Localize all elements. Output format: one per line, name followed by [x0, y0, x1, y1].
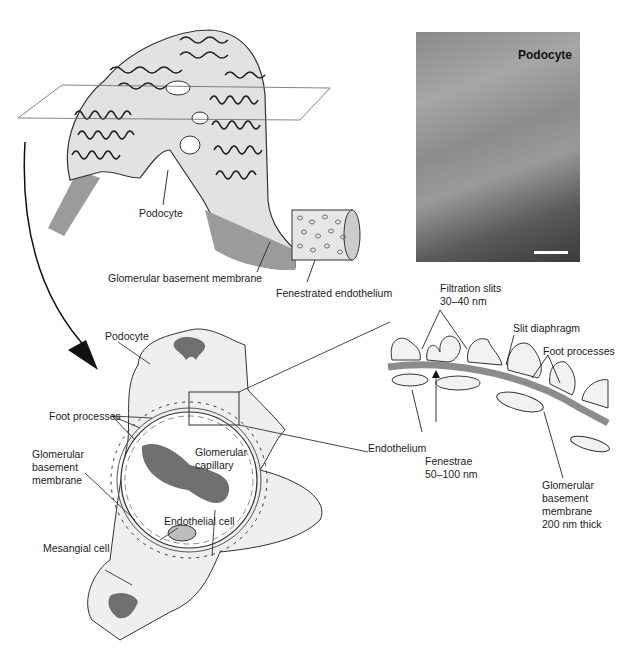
label-endothelial-cell: Endothelial cell: [164, 515, 235, 527]
label-gbm-detail-3: membrane: [542, 505, 592, 517]
micrograph-title: Podocyte: [518, 48, 572, 62]
label-filtration-slits-1: Filtration slits: [440, 282, 501, 294]
label-endothelium: Endothelium: [368, 442, 426, 454]
podocyte-3d-illustration: [18, 30, 360, 282]
label-foot-processes-section: Foot processes: [49, 410, 121, 422]
label-capillary-1: Glomerular: [195, 446, 247, 458]
label-fenestrae-1: Fenestrae: [425, 455, 472, 467]
label-capillary-2: capillary: [195, 459, 234, 471]
capillary-cross-section: [85, 322, 390, 640]
label-gbm-detail-2: basement: [542, 492, 588, 504]
label-slit-diaphragm: Slit diaphragm: [513, 322, 580, 334]
label-gbm-section-3: membrane: [32, 474, 82, 486]
label-gbm-detail-4: 200 nm thick: [542, 518, 602, 530]
scale-bar: [534, 251, 568, 254]
label-mesangial-cell: Mesangial cell: [43, 542, 110, 554]
label-fenestrated-endothelium: Fenestrated endothelium: [276, 287, 392, 299]
label-gbm-section-2: basement: [32, 461, 78, 473]
label-gbm-top: Glomerular basement membrane: [108, 272, 262, 284]
label-foot-processes-detail: Foot processes: [543, 345, 615, 357]
label-podocyte-top: Podocyte: [139, 207, 183, 219]
sem-micrograph: Podocyte: [416, 32, 580, 262]
label-gbm-section-1: Glomerular: [32, 448, 84, 460]
label-gbm-detail-1: Glomerular: [542, 479, 594, 491]
label-filtration-slits-2: 30–40 nm: [440, 295, 487, 307]
label-fenestrae-2: 50–100 nm: [425, 468, 478, 480]
label-podocyte-section: Podocyte: [105, 330, 149, 342]
